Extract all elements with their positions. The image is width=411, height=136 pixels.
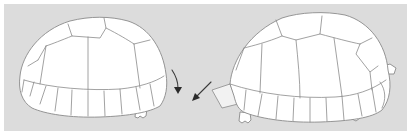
illustration-panel (4, 4, 407, 131)
tortoise-shells-illustration (4, 4, 407, 131)
figure (0, 0, 411, 136)
